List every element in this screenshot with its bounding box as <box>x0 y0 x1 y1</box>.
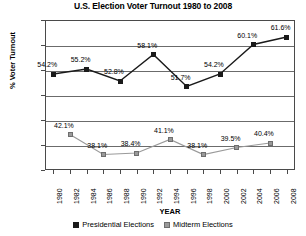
voter-turnout-chart: U.S. Election Voter Turnout 1980 to 2008… <box>0 0 306 236</box>
data-point-label: 60.1% <box>237 32 257 39</box>
x-tick-mark <box>287 170 288 174</box>
x-tick-label: 1980 <box>56 164 63 204</box>
x-tick-label: 2006 <box>273 164 280 204</box>
x-tick-mark <box>220 170 221 174</box>
x-tick-mark <box>120 170 121 174</box>
data-point-marker <box>68 132 73 137</box>
legend-label-midterm: Midterm Elections <box>173 220 233 229</box>
x-tick-label: 1986 <box>106 164 113 204</box>
data-point-label: 41.1% <box>154 127 174 134</box>
x-tick-label: 2008 <box>290 164 297 204</box>
data-point-marker <box>118 79 123 84</box>
x-tick-mark <box>270 170 271 174</box>
x-tick-label: 2004 <box>256 164 263 204</box>
x-tick-mark <box>87 170 88 174</box>
x-tick-label: 1996 <box>190 164 197 204</box>
y-tick-mark <box>41 170 45 171</box>
data-point-marker <box>134 151 139 156</box>
series-lines <box>45 20 295 170</box>
x-tick-label: 1994 <box>173 164 180 204</box>
data-point-marker <box>251 42 256 47</box>
x-tick-mark <box>170 170 171 174</box>
x-tick-label: 1990 <box>140 164 147 204</box>
data-point-marker <box>201 152 206 157</box>
legend-label-presidential: Presidential Elections <box>82 220 154 229</box>
x-tick-label: 1992 <box>156 164 163 204</box>
data-point-label: 40.4% <box>254 130 274 137</box>
x-tick-mark <box>53 170 54 174</box>
data-point-marker <box>268 141 273 146</box>
data-point-label: 55.2% <box>71 56 91 63</box>
x-tick-mark <box>253 170 254 174</box>
data-point-marker <box>84 67 89 72</box>
data-point-marker <box>234 145 239 150</box>
data-point-label: 58.1% <box>137 42 157 49</box>
legend-item-midterm: Midterm Elections <box>164 220 233 229</box>
chart-legend: Presidential Elections Midterm Elections <box>0 220 306 229</box>
data-point-marker <box>218 72 223 77</box>
data-point-label: 38.1% <box>87 142 107 149</box>
y-axis-title: % Voter Turnout <box>8 21 17 101</box>
data-point-marker <box>284 35 289 40</box>
data-point-label: 54.2% <box>37 61 57 68</box>
data-point-label: 38.4% <box>121 140 141 147</box>
x-tick-mark <box>137 170 138 174</box>
legend-item-presidential: Presidential Elections <box>73 220 154 229</box>
data-point-label: 52.8% <box>104 68 124 75</box>
chart-title: U.S. Election Voter Turnout 1980 to 2008 <box>0 1 306 11</box>
data-point-marker <box>168 137 173 142</box>
x-tick-mark <box>103 170 104 174</box>
data-point-label: 39.5% <box>221 135 241 142</box>
x-tick-mark <box>187 170 188 174</box>
legend-swatch-presidential-icon <box>73 222 79 228</box>
data-point-marker <box>101 152 106 157</box>
x-tick-label: 1998 <box>206 164 213 204</box>
data-point-marker <box>184 84 189 89</box>
x-axis-title: YEAR <box>45 207 295 216</box>
x-tick-mark <box>203 170 204 174</box>
data-point-label: 61.6% <box>271 24 291 31</box>
data-point-marker <box>151 52 156 57</box>
data-point-marker <box>51 72 56 77</box>
data-point-label: 51.7% <box>171 74 191 81</box>
x-tick-label: 2000 <box>223 164 230 204</box>
x-tick-mark <box>70 170 71 174</box>
legend-swatch-midterm-icon <box>164 222 170 228</box>
x-tick-mark <box>237 170 238 174</box>
data-point-label: 38.1% <box>187 142 207 149</box>
data-point-label: 42.1% <box>54 122 74 129</box>
data-point-label: 54.2% <box>204 61 224 68</box>
x-tick-label: 2002 <box>240 164 247 204</box>
x-tick-label: 1984 <box>90 164 97 204</box>
x-tick-mark <box>153 170 154 174</box>
x-tick-label: 1988 <box>123 164 130 204</box>
x-tick-label: 1982 <box>73 164 80 204</box>
